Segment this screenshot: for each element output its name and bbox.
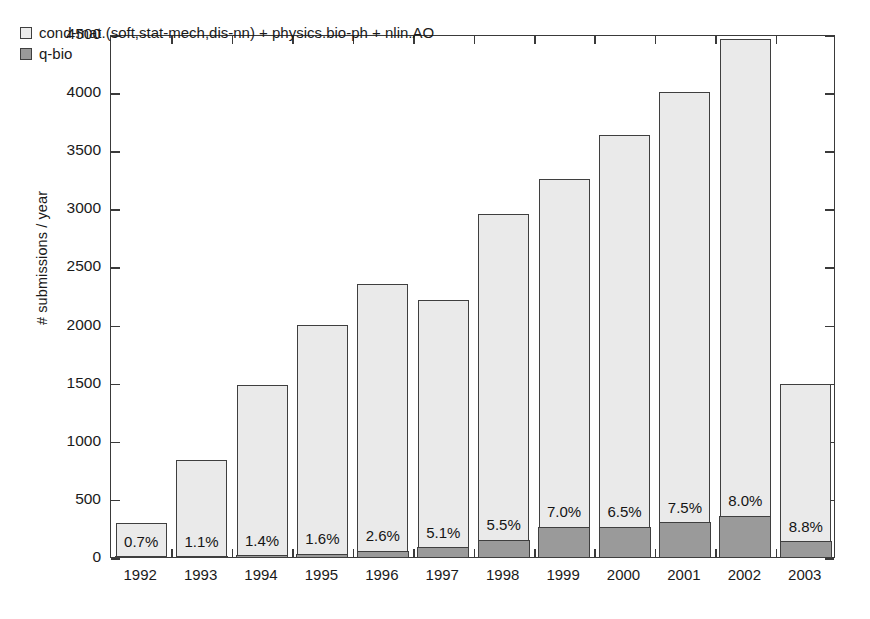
chart-legend: cond-mat.(soft,stat-mech,dis-nn) + physi… — [20, 22, 434, 64]
x-axis-tick-bottom — [655, 549, 657, 557]
y-tick-label: 0 — [92, 548, 101, 566]
y-tick-mark-left — [111, 558, 120, 560]
x-tick-label-1993: 1993 — [170, 566, 230, 583]
y-tick-mark-left — [111, 151, 120, 153]
bar-2002: 8.0% — [720, 39, 771, 557]
y-tick-label: 1000 — [67, 432, 101, 450]
bar-segment-q-bio — [659, 522, 711, 557]
y-tick-label: 500 — [75, 490, 101, 508]
bar-segment-q-bio — [417, 547, 469, 557]
y-tick-mark-left — [111, 500, 120, 502]
x-tick-label-1997: 1997 — [412, 566, 472, 583]
x-axis-tick-bottom — [232, 549, 234, 557]
bar-percent-label: 2.6% — [358, 527, 407, 544]
y-tick-label: 3000 — [67, 199, 101, 217]
x-axis-tick-bottom — [413, 549, 415, 557]
chart-figure: # submissions / year 0500100015002000250… — [0, 0, 870, 619]
y-tick-mark-left — [111, 384, 120, 386]
bar-percent-label: 8.0% — [721, 492, 770, 509]
x-axis-tick-top — [655, 36, 657, 44]
bar-1999: 7.0% — [539, 179, 590, 557]
bar-percent-label: 0.7% — [117, 533, 166, 550]
bar-1992: 0.7% — [116, 523, 167, 557]
legend-label-q-bio: q-bio — [39, 43, 72, 64]
bar-segment-q-bio — [296, 554, 348, 558]
x-axis-tick-top — [594, 36, 596, 44]
bar-2003: 8.8% — [780, 384, 831, 557]
bar-percent-label: 1.6% — [298, 530, 347, 547]
y-tick-mark-right — [825, 93, 834, 95]
x-tick-label-1992: 1992 — [110, 566, 170, 583]
x-axis-tick-bottom — [353, 549, 355, 557]
x-tick-label-1995: 1995 — [291, 566, 351, 583]
bar-segment-q-bio — [176, 556, 228, 558]
x-axis-tick-bottom — [594, 549, 596, 557]
bar-percent-label: 6.5% — [600, 503, 649, 520]
legend-swatch-light-gray-square — [20, 27, 32, 39]
bar-1998: 5.5% — [478, 214, 529, 557]
bar-segment-q-bio — [478, 540, 530, 558]
x-axis-tick-top — [715, 36, 717, 44]
x-tick-label-2002: 2002 — [714, 566, 774, 583]
legend-swatch-dark-gray-square — [20, 48, 32, 60]
bar-2001: 7.5% — [659, 92, 710, 557]
bar-percent-label: 7.0% — [540, 503, 589, 520]
x-axis-tick-top — [474, 36, 476, 44]
bar-percent-label: 1.1% — [177, 533, 226, 550]
x-tick-label-1996: 1996 — [352, 566, 412, 583]
x-tick-label-1998: 1998 — [473, 566, 533, 583]
y-tick-mark-left — [111, 267, 120, 269]
x-axis-tick-top — [776, 36, 778, 44]
legend-item-q-bio: q-bio — [20, 43, 434, 64]
x-axis-tick-bottom — [292, 549, 294, 557]
bar-1994: 1.4% — [237, 385, 288, 557]
y-tick-mark-left — [111, 93, 120, 95]
x-axis-tick-bottom — [171, 549, 173, 557]
x-axis-tick-bottom — [474, 549, 476, 557]
x-axis-tick-bottom — [534, 549, 536, 557]
y-tick-label: 3500 — [67, 141, 101, 159]
bar-segment-q-bio — [599, 527, 651, 558]
bar-percent-label: 5.1% — [419, 524, 468, 541]
y-tick-label: 4000 — [67, 83, 101, 101]
x-axis-tick-bottom — [776, 549, 778, 557]
y-tick-label: 2000 — [67, 316, 101, 334]
x-axis-tick-bottom — [715, 549, 717, 557]
y-tick-mark-right — [825, 209, 834, 211]
bar-segment-q-bio — [538, 527, 590, 558]
y-tick-mark-right — [825, 151, 834, 153]
legend-label-cond-mat: cond-mat.(soft,stat-mech,dis-nn) + physi… — [39, 22, 434, 43]
y-tick-label: 2500 — [67, 257, 101, 275]
bar-segment-q-bio — [780, 541, 832, 557]
x-tick-label-1999: 1999 — [533, 566, 593, 583]
plot-area: 0500100015002000250030003500400045000.7%… — [110, 35, 835, 558]
y-tick-mark-right — [825, 35, 834, 37]
bar-segment-q-bio — [115, 556, 167, 558]
bar-percent-label: 1.4% — [238, 532, 287, 549]
x-axis-tick-top — [534, 36, 536, 44]
bar-1995: 1.6% — [297, 325, 348, 557]
y-tick-mark-right — [825, 558, 834, 560]
y-tick-mark-left — [111, 326, 120, 328]
bar-percent-label: 5.5% — [479, 516, 528, 533]
bar-percent-label: 7.5% — [660, 499, 709, 516]
y-tick-mark-right — [825, 326, 834, 328]
x-tick-label-2000: 2000 — [593, 566, 653, 583]
bar-percent-label: 8.8% — [781, 518, 830, 535]
x-tick-label-2001: 2001 — [654, 566, 714, 583]
bar-2000: 6.5% — [599, 135, 650, 557]
y-tick-mark-right — [825, 267, 834, 269]
bar-1993: 1.1% — [176, 460, 227, 557]
y-tick-mark-left — [111, 209, 120, 211]
x-tick-label-1994: 1994 — [231, 566, 291, 583]
legend-item-cond-mat: cond-mat.(soft,stat-mech,dis-nn) + physi… — [20, 22, 434, 43]
y-axis-title: # submissions / year — [34, 158, 50, 358]
y-tick-label: 1500 — [67, 374, 101, 392]
bar-1996: 2.6% — [357, 284, 408, 557]
bar-segment-q-bio — [236, 555, 288, 557]
bar-segment-q-bio — [719, 516, 771, 558]
x-tick-label-2003: 2003 — [775, 566, 835, 583]
bar-1997: 5.1% — [418, 300, 469, 557]
bar-segment-q-bio — [357, 551, 409, 558]
y-tick-mark-left — [111, 442, 120, 444]
